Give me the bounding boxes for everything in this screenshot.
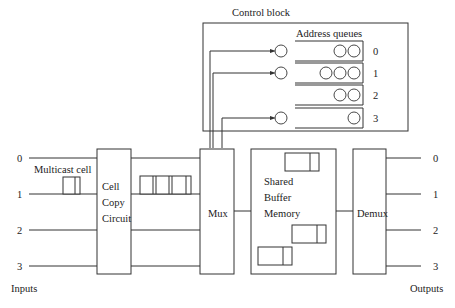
cell-copy-line1: Cell: [102, 181, 120, 192]
output-port-2: 2: [433, 225, 438, 236]
copy-to-mux-lines: [131, 158, 200, 266]
output-port-3: 3: [433, 261, 438, 272]
output-port-1: 1: [433, 189, 438, 200]
queue-head-circle: [275, 67, 287, 79]
cell-copy-line3: Circuit: [102, 213, 131, 224]
buffer-line2: Buffer: [264, 192, 292, 203]
inputs-label: Inputs: [11, 283, 37, 294]
queue-entry: [348, 67, 360, 79]
cell-copy-line2: Copy: [102, 197, 126, 208]
output-lines: [386, 158, 421, 266]
queue-entry: [334, 67, 346, 79]
queue-label: 2: [373, 90, 378, 101]
queue-label: 0: [373, 46, 378, 57]
queue-head-circle: [275, 112, 287, 124]
demux-label: Demux: [357, 208, 389, 219]
queue-entry: [348, 112, 360, 124]
input-port-1: 1: [17, 189, 22, 200]
queue-entry: [348, 89, 360, 101]
queue-entry: [334, 89, 346, 101]
cell-copy-circuit: [97, 149, 131, 274]
queue-head-circle: [275, 45, 287, 57]
buffer-line1: Shared: [264, 176, 294, 187]
queue-label: 3: [373, 113, 378, 124]
copied-cells: [140, 176, 191, 194]
multicast-cell: [63, 177, 80, 194]
shared-buffer-switch-diagram: Control block Address queues 0123 0 1 2 …: [0, 0, 455, 308]
buffer-line3: Memory: [264, 208, 301, 219]
queue-entry: [320, 67, 332, 79]
input-port-2: 2: [17, 225, 22, 236]
output-port-0: 0: [433, 153, 438, 164]
multicast-cell-label: Multicast cell: [34, 164, 92, 175]
queue-entry: [348, 45, 360, 57]
control-block-title: Control block: [232, 7, 291, 18]
mux-label: Mux: [208, 208, 229, 219]
input-port-3: 3: [17, 261, 22, 272]
input-port-0: 0: [17, 153, 22, 164]
queue-label: 1: [373, 68, 378, 79]
queue-entry: [334, 45, 346, 57]
address-queues-title: Address queues: [296, 28, 362, 39]
outputs-label: Outputs: [410, 283, 443, 294]
